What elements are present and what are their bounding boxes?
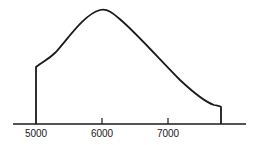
tick-label-7000: 7000	[157, 128, 179, 139]
distribution-chart	[0, 0, 257, 145]
density-curve	[36, 10, 221, 124]
tick-label-6000: 6000	[91, 128, 113, 139]
tick-label-5000: 5000	[25, 128, 47, 139]
